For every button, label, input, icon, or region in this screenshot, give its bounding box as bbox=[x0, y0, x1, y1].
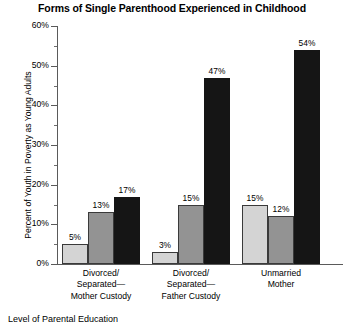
y-tick-major bbox=[51, 264, 57, 265]
y-tick-major bbox=[51, 185, 57, 186]
bar-value-label: 54% bbox=[288, 38, 326, 48]
y-tick-minor bbox=[54, 46, 57, 47]
category-label-line: Unmarried bbox=[226, 268, 336, 279]
y-tick-major bbox=[51, 224, 57, 225]
category-label-line: Mother bbox=[226, 279, 336, 290]
bar-slot: 12% bbox=[268, 26, 294, 264]
y-tick-label: 20% bbox=[3, 179, 49, 189]
bar-slot: 5% bbox=[62, 26, 88, 264]
bar-slot: 47% bbox=[204, 26, 230, 264]
bar[interactable] bbox=[152, 252, 178, 264]
y-tick-minor bbox=[54, 165, 57, 166]
bar-value-label: 17% bbox=[108, 185, 146, 195]
bar-slot: 17% bbox=[114, 26, 140, 264]
bar-slot: 3% bbox=[152, 26, 178, 264]
x-axis-line bbox=[57, 264, 343, 265]
footer-clipped-legend: Level of Parental Education bbox=[8, 314, 118, 323]
bar[interactable] bbox=[62, 244, 88, 264]
y-tick-label: 50% bbox=[3, 60, 49, 70]
category-label-line: Father Custody bbox=[136, 291, 246, 302]
y-tick-major bbox=[51, 145, 57, 146]
y-tick-major bbox=[51, 26, 57, 27]
y-tick-label: 40% bbox=[3, 99, 49, 109]
y-tick-minor bbox=[54, 86, 57, 87]
bar-group: 5%13%17% bbox=[62, 26, 140, 264]
bar-value-label: 47% bbox=[198, 66, 236, 76]
y-tick-minor bbox=[54, 205, 57, 206]
y-tick-label: 0% bbox=[3, 258, 49, 268]
x-axis-category-label: UnmarriedMother bbox=[226, 268, 336, 291]
bar[interactable] bbox=[294, 50, 320, 264]
bar-slot: 15% bbox=[178, 26, 204, 264]
bar[interactable] bbox=[88, 212, 114, 264]
bar[interactable] bbox=[114, 197, 140, 264]
y-tick-major bbox=[51, 66, 57, 67]
bar-group: 3%15%47% bbox=[152, 26, 230, 264]
y-axis-line bbox=[57, 26, 58, 264]
bar[interactable] bbox=[268, 216, 294, 264]
y-tick-major bbox=[51, 105, 57, 106]
y-tick-minor bbox=[54, 125, 57, 126]
y-tick-label: 60% bbox=[3, 20, 49, 30]
bar-slot: 54% bbox=[294, 26, 320, 264]
chart-title: Forms of Single Parenthood Experienced i… bbox=[0, 2, 344, 14]
y-tick-label: 10% bbox=[3, 218, 49, 228]
bar-group: 15%12%54% bbox=[242, 26, 320, 264]
bar[interactable] bbox=[204, 78, 230, 264]
bar-slot: 15% bbox=[242, 26, 268, 264]
bar-slot: 13% bbox=[88, 26, 114, 264]
y-tick-label: 30% bbox=[3, 139, 49, 149]
y-tick-minor bbox=[54, 244, 57, 245]
bar[interactable] bbox=[178, 205, 204, 265]
